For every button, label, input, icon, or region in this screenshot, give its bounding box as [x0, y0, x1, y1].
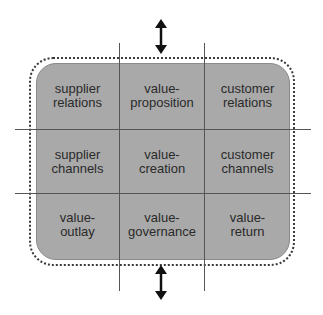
cell-line: proposition	[130, 95, 194, 110]
cell-line: customer	[221, 147, 274, 162]
cell-line: customer	[221, 81, 274, 96]
cell-line: value-	[144, 81, 179, 96]
cell-line: governance	[128, 224, 196, 239]
cell-line: supplier	[55, 147, 101, 162]
cell-line: value-	[144, 147, 179, 162]
cell-line: return	[231, 224, 265, 239]
cell-line: relations	[53, 95, 102, 110]
cell-supplier-relations: supplierrelations	[36, 63, 119, 129]
cell-line: creation	[139, 161, 185, 176]
cell-line: value-	[60, 210, 95, 225]
cell-line: relations	[223, 95, 272, 110]
cell-line: channels	[51, 161, 103, 176]
cell-value-proposition: value-proposition	[120, 63, 204, 129]
cell-supplier-channels: supplierchannels	[36, 130, 119, 193]
cell-customer-relations: customerrelations	[205, 63, 290, 129]
cell-value-creation: value-creation	[120, 130, 204, 193]
cell-value-governance: value-governance	[120, 194, 204, 256]
cell-line: supplier	[55, 81, 101, 96]
cell-line: value-	[230, 210, 265, 225]
cell-line: outlay	[60, 224, 95, 239]
cell-value-return: value-return	[205, 194, 290, 256]
cell-line: channels	[221, 161, 273, 176]
double-arrow-bottom-icon	[155, 265, 167, 300]
double-arrow-top-icon	[155, 19, 167, 54]
cell-value-outlay: value-outlay	[36, 194, 119, 256]
cell-customer-channels: customerchannels	[205, 130, 290, 193]
cell-line: value-	[144, 210, 179, 225]
